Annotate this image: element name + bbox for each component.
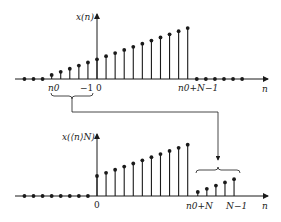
top-xlabel: n [262, 84, 268, 94]
sample-dot [196, 190, 200, 194]
sample-dot [32, 194, 36, 198]
sample-dot [77, 194, 81, 198]
tick-end-bottom: N−1 [225, 201, 247, 211]
tick-zero-top: 0 [96, 83, 102, 93]
sample-dot [186, 143, 190, 147]
sample-dot [59, 194, 63, 198]
top-plot: x(n) n n0 −1 0 n0+N−1 [15, 12, 268, 99]
top-ylabel: x(n) [76, 12, 94, 22]
sample-dot [122, 165, 126, 169]
sample-dot [131, 162, 135, 166]
sample-dot [159, 152, 163, 156]
sample-dot [86, 61, 90, 65]
tick-zero-bottom: 0 [94, 200, 100, 210]
sample-dot [231, 77, 235, 81]
sample-dot [95, 174, 99, 178]
sample-dot [104, 171, 108, 175]
tick-minus-one: −1 [80, 83, 93, 93]
sample-dot [159, 36, 163, 40]
sample-dot [168, 149, 172, 153]
top-stems [23, 26, 244, 81]
sample-dot [240, 77, 244, 81]
tick-end-top: n0+N−1 [178, 83, 218, 93]
sample-dot [186, 26, 190, 30]
sample-dot [68, 67, 72, 71]
tick-wrap: n0+N [186, 201, 214, 211]
sample-dot [213, 77, 217, 81]
sample-dot [195, 77, 199, 81]
sample-dot [122, 48, 126, 52]
sample-dot [59, 70, 63, 74]
bracket-top [51, 93, 93, 99]
sample-dot [86, 194, 90, 198]
tick-n0: n0 [48, 83, 60, 93]
sample-dot [140, 42, 144, 46]
sample-dot [223, 181, 227, 185]
sample-dot [23, 194, 27, 198]
sample-dot [131, 45, 135, 49]
sample-dot [205, 187, 209, 191]
sample-dot [232, 177, 236, 181]
sample-dot [104, 54, 108, 58]
sample-dot [113, 51, 117, 55]
sample-dot [204, 77, 208, 81]
sample-dot [150, 155, 154, 159]
sample-dot [113, 168, 117, 172]
sample-dot [140, 158, 144, 162]
sample-dot [41, 194, 45, 198]
sample-dot [214, 184, 218, 188]
shift-arrow [72, 99, 218, 160]
sample-dot [95, 57, 99, 61]
sample-dot [50, 73, 54, 77]
sample-dot [23, 77, 27, 81]
sample-dot [222, 77, 226, 81]
bottom-xlabel: n [262, 201, 268, 211]
bottom-ylabel: x(⟨n⟩N) [62, 132, 95, 142]
sample-dot [168, 32, 172, 36]
circular-shift-diagram: x(n) n n0 −1 0 n0+N−1 x(⟨n⟩N) n 0 n0+N N… [0, 0, 281, 222]
sample-dot [150, 39, 154, 43]
sample-dot [32, 77, 36, 81]
sample-dot [50, 194, 54, 198]
sample-dot [68, 194, 72, 198]
sample-dot [77, 64, 81, 68]
sample-dot [41, 77, 45, 81]
sample-dot [177, 29, 181, 33]
bracket-bottom [196, 167, 240, 173]
bottom-plot: x(⟨n⟩N) n 0 n0+N N−1 [15, 132, 268, 211]
sample-dot [177, 146, 181, 150]
